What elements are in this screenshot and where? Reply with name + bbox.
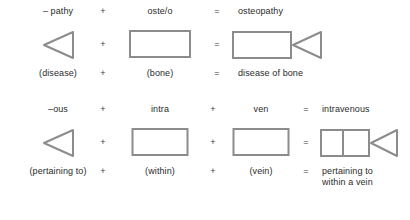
meaning-within: (within) [145, 166, 175, 177]
operator-plus-1: + [100, 104, 105, 115]
term-suffix-ous: –ous [48, 104, 68, 115]
meaning-result-line-1: pertaining to [322, 166, 373, 177]
operator-plus-1-meaning-row: + [100, 166, 105, 177]
meaning-result-line-2: within a vein [322, 177, 373, 188]
operator-plus-2-shape-row: + [210, 137, 215, 148]
shape-triangle-suffix [41, 128, 75, 162]
term-prefix-intra: intra [151, 104, 169, 115]
meaning-bone: (bone) [147, 68, 174, 79]
shape-triangle-suffix [41, 30, 75, 64]
term-result-intravenous: intravenous [322, 104, 370, 115]
triangle-left-icon [41, 128, 75, 158]
term-suffix-pathy: – pathy [43, 6, 73, 17]
operator-plus: + [100, 6, 105, 17]
combo-group [232, 30, 323, 60]
triangle-left-icon [41, 30, 75, 60]
rectangle-glyph-prefix [320, 129, 344, 157]
term-result-osteopathy: osteopathy [238, 6, 283, 17]
combo-group [320, 128, 399, 158]
operator-equals-shape-row: = [303, 137, 308, 148]
word-building-diagram: – pathy + oste/o = osteopathy + = (disea [0, 0, 410, 220]
rectangle-glyph-root [342, 129, 370, 157]
meaning-vein: (vein) [249, 166, 272, 177]
meaning-pertaining-to: (pertaining to) [29, 166, 86, 177]
shape-combined-intravenous [320, 128, 399, 162]
rectangle-glyph [132, 128, 189, 156]
rectangle-glyph [232, 31, 292, 59]
operator-equals-meaning-row: = [214, 68, 219, 79]
term-root-osteo: oste/o [147, 6, 172, 17]
operator-equals: = [214, 6, 219, 17]
shape-combined-osteopathy [232, 30, 323, 64]
operator-plus-2: + [210, 104, 215, 115]
operator-equals: = [303, 104, 308, 115]
operator-equals-meaning-row: = [303, 166, 308, 177]
operator-plus-2-meaning-row: + [210, 166, 215, 177]
shape-rectangle-root [129, 30, 191, 64]
operator-plus-shape-row: + [100, 39, 105, 50]
operator-equals-shape-row: = [214, 39, 219, 50]
operator-plus-1-shape-row: + [100, 137, 105, 148]
shape-rectangle-prefix [132, 128, 189, 162]
term-root-ven: ven [254, 104, 269, 115]
shape-rectangle-root [233, 128, 290, 162]
operator-plus-meaning-row: + [100, 68, 105, 79]
meaning-disease: (disease) [39, 68, 77, 79]
rectangle-glyph [233, 128, 290, 156]
meaning-result-disease-of-bone: disease of bone [238, 68, 303, 79]
rectangle-glyph [129, 30, 191, 58]
triangle-left-icon [369, 128, 399, 158]
triangle-left-icon [291, 30, 323, 60]
